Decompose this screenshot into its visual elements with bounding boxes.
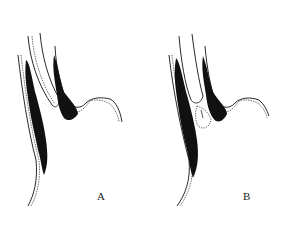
panel-label-a: A <box>97 190 105 202</box>
panel-b: B <box>143 0 286 226</box>
panel-a-drawing <box>0 0 143 226</box>
panel-a: A <box>0 0 143 226</box>
panel-b-drawing <box>143 0 286 226</box>
panel-label-b: B <box>243 190 250 202</box>
